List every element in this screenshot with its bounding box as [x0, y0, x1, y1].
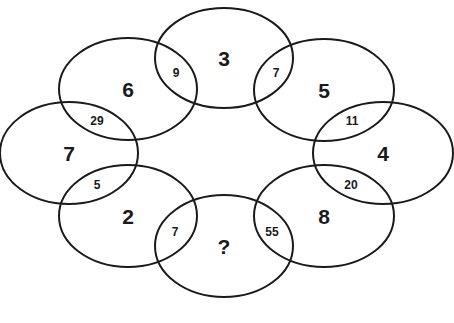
intersection-value-label: 7	[273, 66, 280, 80]
ellipse-value-label: 8	[318, 205, 330, 228]
ellipse-value-label: 5	[318, 79, 330, 102]
ellipse-value-label: 6	[122, 78, 134, 101]
ellipse-value-label: 4	[377, 142, 389, 165]
ellipse-value-label: 2	[122, 205, 134, 228]
ellipse-value-label: 3	[218, 47, 230, 70]
intersection-value-label: 29	[90, 114, 104, 128]
ellipse-puzzle-diagram: 3548?276 971120557529	[0, 0, 454, 323]
unknown-value-label: ?	[218, 235, 231, 258]
intersection-value-label: 55	[265, 225, 279, 239]
intersection-value-label: 5	[94, 178, 101, 192]
ellipse-value-label: 7	[63, 142, 75, 165]
intersection-value-label: 11	[346, 114, 359, 128]
intersection-value-label: 7	[172, 225, 179, 239]
intersection-value-label: 20	[344, 178, 358, 192]
intersection-value-label: 9	[173, 66, 180, 80]
